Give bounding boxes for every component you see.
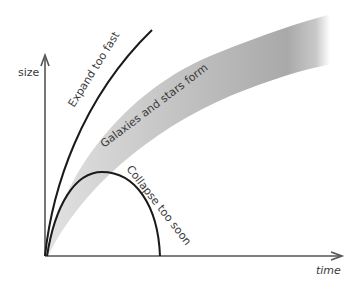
- galaxies-band: [46, 14, 332, 256]
- diagram-canvas: size time Expand too fast Galaxies and s…: [0, 0, 359, 290]
- expand-too-fast-label: Expand too fast: [66, 29, 123, 110]
- x-axis-label: time: [316, 264, 341, 277]
- y-axis-label: size: [18, 66, 40, 79]
